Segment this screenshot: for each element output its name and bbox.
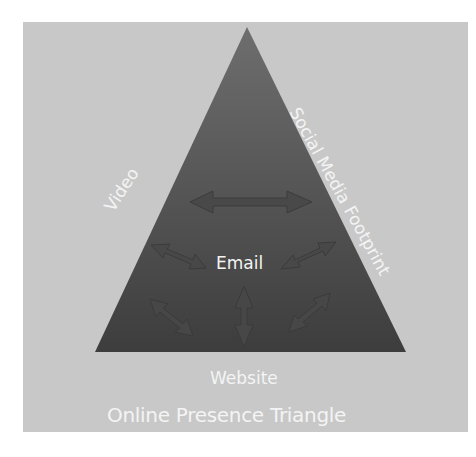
triangle-diagram — [0, 0, 476, 457]
diagram-title: Online Presence Triangle — [107, 403, 346, 427]
center-label-email: Email — [216, 253, 263, 273]
bottom-label-website: Website — [210, 368, 278, 388]
